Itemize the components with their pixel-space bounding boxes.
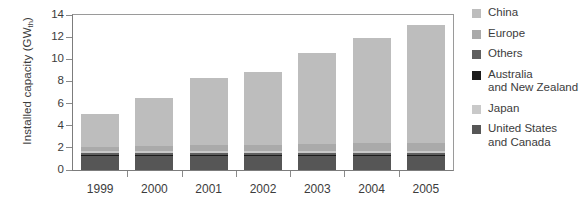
legend-swatch-icon [472, 105, 481, 114]
legend-swatch-icon [472, 71, 481, 80]
x-tick-label-1999: 1999 [70, 182, 130, 196]
bar-segment[interactable] [407, 156, 445, 170]
bar-segment[interactable] [190, 156, 228, 170]
x-tick-4 [290, 171, 291, 177]
y-tick-label-10: 10 [24, 53, 64, 65]
legend-item[interactable]: Australia and New Zealand [472, 68, 584, 95]
legend-label: Europe [488, 27, 525, 41]
y-tick-label-12: 12 [24, 31, 64, 43]
y-tick-label-8: 8 [24, 75, 64, 87]
legend-swatch-icon [472, 50, 481, 59]
y-tick-label-6: 6 [24, 98, 64, 110]
bar-segment[interactable] [244, 156, 282, 170]
bar-group-2001[interactable] [190, 78, 228, 170]
bar-group-2002[interactable] [244, 72, 282, 170]
bar-segment[interactable] [298, 144, 336, 151]
x-tick-label-2004: 2004 [342, 182, 402, 196]
bar-segment[interactable] [81, 156, 119, 170]
y-tick-label-14: 14 [24, 9, 64, 21]
bar-segment[interactable] [190, 78, 228, 145]
bar-segment[interactable] [298, 156, 336, 170]
stacked-bar-chart: Installed capacity (GWth) 02468101214 19… [0, 0, 584, 213]
x-tick-label-2000: 2000 [124, 182, 184, 196]
legend-label: China [488, 6, 518, 20]
legend-item[interactable]: Japan [472, 102, 584, 116]
x-tick-5 [344, 171, 345, 177]
bar-segment[interactable] [353, 143, 391, 150]
bar-group-1999[interactable] [81, 114, 119, 170]
legend-swatch-icon [472, 9, 481, 18]
bar-segment[interactable] [298, 53, 336, 144]
bar-segment[interactable] [353, 38, 391, 143]
plot-area [73, 15, 453, 170]
bar-segment[interactable] [407, 25, 445, 143]
bar-segment[interactable] [244, 72, 282, 146]
x-tick-label-2005: 2005 [396, 182, 456, 196]
bar-group-2005[interactable] [407, 25, 445, 170]
x-tick-label-2002: 2002 [233, 182, 293, 196]
legend-item[interactable]: United States and Canada [472, 122, 584, 149]
bar-segment[interactable] [135, 98, 173, 146]
bar-segment[interactable] [135, 156, 173, 170]
legend-item[interactable]: Others [472, 47, 584, 61]
x-tick-6 [399, 171, 400, 177]
y-tick-label-2: 2 [24, 142, 64, 154]
bar-segment[interactable] [407, 143, 445, 151]
legend-label: Others [488, 47, 523, 61]
legend-item[interactable]: Europe [472, 27, 584, 41]
x-tick-1 [127, 171, 128, 177]
legend-label: Australia and New Zealand [488, 68, 578, 95]
legend-label: United States and Canada [488, 122, 557, 149]
y-tick-label-0: 0 [24, 164, 64, 176]
legend-item[interactable]: China [472, 6, 584, 20]
bar-segment[interactable] [81, 114, 119, 147]
bar-group-2004[interactable] [353, 38, 391, 170]
y-axis-title-subscript: th [26, 21, 35, 27]
x-tick-2 [182, 171, 183, 177]
x-tick-3 [236, 171, 237, 177]
bar-group-2000[interactable] [135, 98, 173, 170]
legend-label: Japan [488, 102, 519, 116]
legend: ChinaEuropeOthersAustralia and New Zeala… [472, 6, 584, 156]
bar-segment[interactable] [353, 156, 391, 170]
y-tick-label-4: 4 [24, 120, 64, 132]
bar-group-2003[interactable] [298, 53, 336, 170]
x-tick-label-2003: 2003 [287, 182, 347, 196]
legend-swatch-icon [472, 125, 481, 134]
x-tick-label-2001: 2001 [179, 182, 239, 196]
legend-swatch-icon [472, 30, 481, 39]
